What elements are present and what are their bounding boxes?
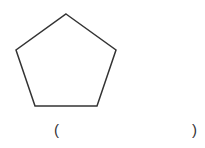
pentagon-shape	[16, 14, 116, 106]
close-paren: )	[192, 122, 197, 137]
answer-blank[interactable]	[66, 122, 186, 140]
open-paren: (	[54, 122, 59, 137]
